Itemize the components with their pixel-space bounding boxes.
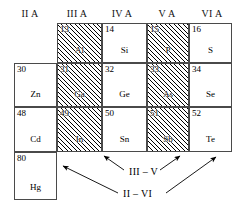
element-cell-p[interactable]: 15 P — [147, 23, 189, 63]
column-header-v-a: V A — [143, 8, 191, 19]
arrow-ii-vi-right — [166, 157, 216, 193]
element-symbol-ga: Ga — [58, 89, 101, 99]
element-cell-ge[interactable]: 32 Ge — [102, 63, 147, 107]
element-cell-hg[interactable]: 80 Hg — [14, 152, 57, 200]
element-cell-si[interactable]: 14 Si — [102, 23, 147, 63]
column-header-iv-a: IV A — [98, 8, 146, 19]
element-number-ga: 31 — [60, 64, 69, 75]
element-number-hg: 80 — [17, 153, 26, 164]
element-number-si: 14 — [105, 24, 114, 35]
element-number-p: 15 — [150, 24, 159, 35]
element-number-ge: 32 — [105, 64, 114, 75]
element-cell-cd[interactable]: 48 Cd — [14, 107, 57, 152]
element-cell-s[interactable]: 16 S — [189, 23, 232, 63]
element-cell-zn[interactable]: 30 Zn — [14, 63, 57, 107]
element-number-sb: 51 — [150, 108, 159, 119]
annotation-label-iii-v: III – V — [127, 166, 160, 177]
element-cell-te[interactable]: 52 Te — [189, 107, 232, 152]
element-symbol-sn: Sn — [103, 134, 146, 144]
element-symbol-al: Al — [58, 45, 101, 55]
element-symbol-zn: Zn — [15, 89, 56, 99]
column-header-vi-a: VI A — [188, 8, 236, 19]
element-symbol-sb: Sb — [148, 134, 188, 144]
element-number-zn: 30 — [17, 64, 26, 75]
element-symbol-in: In — [58, 134, 101, 144]
element-symbol-as: As — [148, 89, 188, 99]
arrow-ii-vi-left — [63, 166, 118, 193]
element-cell-al[interactable]: 13 Al — [57, 23, 102, 63]
element-cell-se[interactable]: 34 Se — [189, 63, 232, 107]
annotation-label-ii-vi: II – VI — [121, 188, 154, 199]
arrow-iii-v-left — [104, 156, 124, 170]
element-symbol-se: Se — [190, 89, 231, 99]
element-number-cd: 48 — [17, 108, 26, 119]
element-number-se: 34 — [192, 64, 201, 75]
element-symbol-ge: Ge — [103, 89, 146, 99]
element-symbol-s: S — [190, 45, 231, 55]
periodic-table-figure: II A III A IV A V A VI A 13 Al 14 Si 15 … — [0, 0, 248, 210]
element-cell-sb[interactable]: 51 Sb — [147, 107, 189, 152]
element-symbol-hg: Hg — [15, 182, 56, 192]
column-header-iii-a: III A — [53, 8, 101, 19]
element-cell-ga[interactable]: 31 Ga — [57, 63, 102, 107]
element-symbol-si: Si — [103, 45, 146, 55]
element-number-as: 33 — [150, 64, 159, 75]
element-number-al: 13 — [60, 24, 69, 35]
arrow-iii-v-right — [160, 156, 180, 170]
element-symbol-p: P — [148, 45, 188, 55]
element-cell-as[interactable]: 33 As — [147, 63, 189, 107]
column-header-ii-a: II A — [6, 8, 54, 19]
element-symbol-te: Te — [190, 134, 231, 144]
element-number-te: 52 — [192, 108, 201, 119]
element-number-s: 16 — [192, 24, 201, 35]
element-cell-in[interactable]: 49 In — [57, 107, 102, 152]
element-number-sn: 50 — [105, 108, 114, 119]
element-number-in: 49 — [60, 108, 69, 119]
element-symbol-cd: Cd — [15, 134, 56, 144]
element-cell-sn[interactable]: 50 Sn — [102, 107, 147, 152]
